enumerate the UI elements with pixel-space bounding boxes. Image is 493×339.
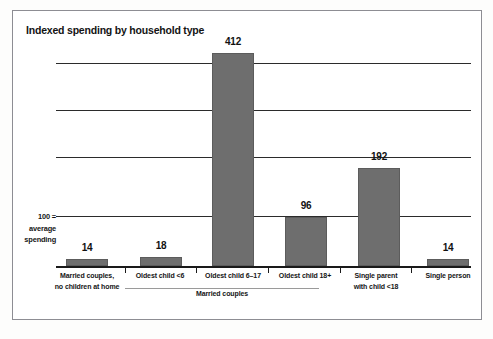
bar-oldest-child-6-17[interactable] bbox=[212, 53, 254, 266]
bar-value-label: 96 bbox=[285, 200, 327, 211]
bar-oldest-child-18-plus[interactable] bbox=[285, 217, 327, 266]
bar-married-couples-no-children[interactable] bbox=[66, 259, 108, 266]
group-bracket-line bbox=[125, 288, 319, 289]
bar-value-label: 18 bbox=[140, 240, 182, 251]
category-label-single-parent-with-child: Single parent with child <18 bbox=[336, 271, 416, 292]
bar-value-label: 14 bbox=[66, 242, 108, 253]
bar-value-label: 14 bbox=[427, 242, 469, 253]
figure-canvas: Indexed spending by household type 100 =… bbox=[0, 0, 493, 339]
category-label-line-2: with child <18 bbox=[336, 282, 416, 293]
bar-value-label: 412 bbox=[212, 36, 254, 47]
category-label-line-1: Single parent bbox=[336, 271, 416, 282]
bar-oldest-child-under-6[interactable] bbox=[140, 257, 182, 266]
category-label-line-1: Single person bbox=[410, 271, 486, 282]
group-bracket-label: Married couples bbox=[125, 290, 319, 297]
category-label-line-2: no children at home bbox=[37, 282, 137, 293]
category-label-single-person: Single person bbox=[410, 271, 486, 282]
bar-value-label: 192 bbox=[358, 151, 400, 162]
bar-single-person[interactable] bbox=[427, 259, 469, 266]
bar-single-parent-with-child[interactable] bbox=[358, 168, 400, 266]
